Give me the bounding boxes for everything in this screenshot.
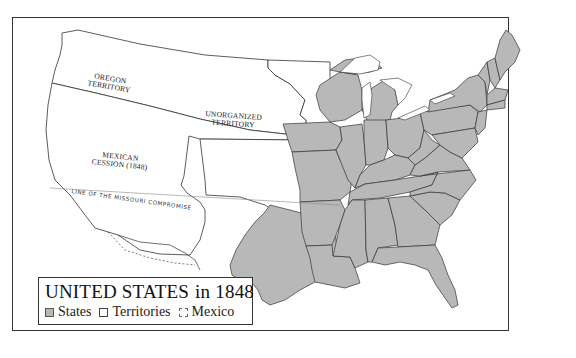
state-indiana xyxy=(364,120,388,165)
map-year: in 1848 xyxy=(195,281,254,302)
states-swatch-icon xyxy=(45,308,54,317)
legend-label-states: States xyxy=(58,304,91,320)
territories-swatch-icon xyxy=(99,308,108,317)
legend-item-territories: Territories xyxy=(99,304,170,320)
legend-items: States Territories Mexico xyxy=(45,304,252,320)
legend-item-states: States xyxy=(45,304,91,320)
state-new-york xyxy=(428,75,487,112)
mexico-swatch-icon xyxy=(179,308,188,317)
map-title: UNITED STATES xyxy=(45,281,189,302)
legend-title: UNITED STATESin 1848 xyxy=(45,281,252,303)
legend-item-mexico: Mexico xyxy=(179,304,235,320)
state-maine xyxy=(495,30,520,80)
state-iowa xyxy=(283,122,342,152)
lake-michigan xyxy=(362,82,372,118)
state-florida xyxy=(372,245,458,308)
map-legend: UNITED STATESin 1848 States Territories … xyxy=(38,277,253,325)
legend-label-mexico: Mexico xyxy=(192,304,235,320)
legend-label-territories: Territories xyxy=(112,304,170,320)
